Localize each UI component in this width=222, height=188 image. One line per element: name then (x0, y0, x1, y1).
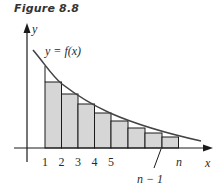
rectangle-8 (162, 137, 179, 148)
tick-label-1: 1 (42, 155, 48, 169)
rectangle-1 (45, 82, 62, 148)
tick-label-n: n (176, 155, 182, 169)
x-axis-arrow-icon (203, 145, 213, 152)
tick-labels: 1 2 3 4 5 n (42, 155, 182, 169)
curve-label: y = f(x) (44, 44, 81, 58)
rectangle-6 (128, 128, 145, 148)
rectangle-5 (111, 121, 128, 148)
rectangle-4 (95, 113, 112, 148)
rectangle-3 (78, 104, 95, 148)
tick-label-4: 4 (92, 155, 98, 169)
tick-label-5: 5 (108, 155, 114, 169)
rectangle-2 (62, 94, 79, 148)
x-axis-label: x (204, 156, 211, 170)
tick-label-n-minus-1: n − 1 (137, 172, 163, 186)
tick-label-3: 3 (75, 155, 81, 169)
tick-label-2: 2 (59, 155, 65, 169)
inscribed-rectangles (45, 82, 179, 148)
rectangle-7 (145, 133, 162, 148)
riemann-sum-diagram: y x y = f(x) 1 2 3 4 5 n n − 1 (0, 0, 222, 188)
y-axis-label: y (31, 22, 38, 36)
n-minus-1-pointer (154, 149, 161, 168)
y-axis-arrow-icon (24, 23, 31, 33)
